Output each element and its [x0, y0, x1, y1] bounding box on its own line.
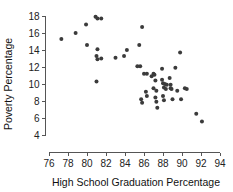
data-point [95, 47, 99, 51]
data-point [165, 83, 169, 87]
y-tick-label: 10 [28, 79, 40, 90]
x-axis: 76788082848688909294 [43, 153, 226, 169]
data-point [95, 17, 99, 21]
data-point [95, 57, 99, 61]
data-point [168, 76, 172, 80]
data-point [125, 48, 129, 52]
data-point [59, 37, 63, 41]
data-point [114, 56, 118, 60]
x-tick-label: 90 [176, 158, 188, 169]
y-tick-label: 6 [34, 113, 40, 124]
data-point [140, 101, 144, 105]
x-tick-label: 94 [214, 158, 226, 169]
data-point [160, 67, 164, 71]
x-tick-label: 76 [43, 158, 55, 169]
data-point [74, 31, 78, 35]
scatter-chart: 4681012141618 76788082848688909294 High … [0, 0, 233, 192]
data-point [194, 112, 198, 116]
x-tick-label: 92 [195, 158, 207, 169]
y-tick-label: 16 [28, 28, 40, 39]
data-point [152, 73, 156, 77]
data-point [137, 43, 141, 47]
data-point [155, 106, 159, 110]
data-point [162, 98, 166, 102]
data-point [173, 66, 177, 70]
x-tick-label: 82 [100, 158, 112, 169]
x-tick-label: 80 [81, 158, 93, 169]
data-point [153, 79, 157, 83]
data-point [171, 97, 175, 101]
data-point [169, 86, 173, 90]
data-point [161, 94, 165, 98]
data-point [178, 51, 182, 55]
y-tick-label: 14 [28, 45, 40, 56]
y-tick-label: 12 [28, 62, 40, 73]
data-point [160, 78, 164, 82]
data-point [139, 97, 143, 101]
x-tick-label: 88 [157, 158, 169, 169]
data-point [95, 79, 99, 83]
data-point [140, 25, 144, 29]
y-axis: 4681012141618 [28, 11, 45, 141]
data-point [179, 97, 183, 101]
x-tick-label: 84 [119, 158, 131, 169]
data-point [154, 89, 158, 93]
data-point [185, 87, 189, 91]
y-tick-label: 18 [28, 11, 40, 22]
y-tick-label: 4 [34, 130, 40, 141]
y-axis-title: Poverty Percentage [2, 38, 14, 130]
data-point [200, 119, 204, 123]
data-point [153, 96, 157, 100]
x-axis-title: High School Graduation Percentage [52, 176, 220, 188]
data-point [99, 17, 103, 21]
y-tick-label: 8 [34, 96, 40, 107]
data-point [95, 54, 99, 58]
data-point [138, 64, 142, 68]
data-point [145, 72, 149, 76]
data-point [154, 100, 158, 104]
data-points [59, 15, 204, 124]
data-point [122, 54, 126, 58]
plot-area: 4681012141618 76788082848688909294 High … [0, 0, 233, 192]
data-point [85, 43, 89, 47]
x-tick-label: 78 [62, 158, 74, 169]
data-point [144, 90, 148, 94]
data-point [175, 89, 179, 93]
data-point [99, 57, 103, 61]
x-tick-label: 86 [138, 158, 150, 169]
data-point [84, 23, 88, 27]
data-point [164, 87, 168, 91]
data-point [145, 94, 149, 98]
